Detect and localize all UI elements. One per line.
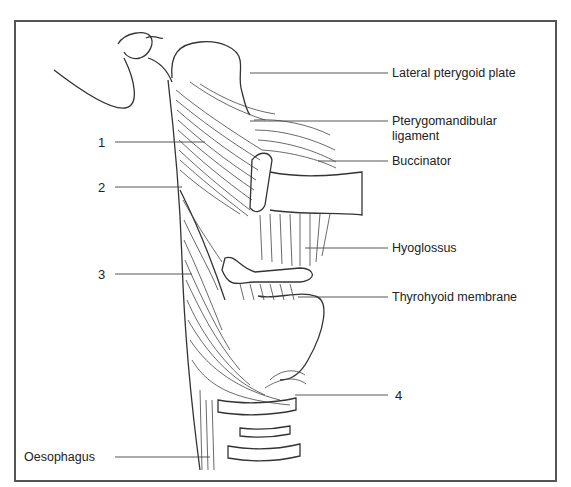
label-thyrohyoid-membrane: Thyrohyoid membrane [392, 290, 517, 304]
label-lateral-pterygoid-plate: Lateral pterygoid plate [392, 66, 516, 80]
label-ligament: ligament [392, 129, 439, 143]
label-oesophagus: Oesophagus [24, 450, 95, 464]
label-number-3: 3 [98, 267, 105, 282]
label-buccinator: Buccinator [392, 154, 451, 168]
label-number-1: 1 [98, 135, 105, 150]
label-number-2: 2 [98, 180, 105, 195]
label-number-4: 4 [395, 388, 402, 403]
label-pterygomandibular: Pterygomandibular [392, 114, 497, 128]
label-hyoglossus: Hyoglossus [392, 241, 457, 255]
